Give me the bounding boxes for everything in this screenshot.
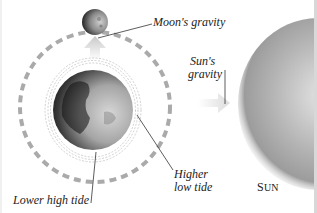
higher-low-tide-label-line2: low tide — [174, 181, 212, 194]
sun-label-rest: UN — [264, 182, 279, 193]
sun-gravity-label-line2: gravity — [188, 68, 222, 81]
tide-diagram: Moon's gravity Sun's gravity Higher low … — [0, 0, 317, 213]
sun — [238, 18, 317, 190]
moon-gravity-label: Moon's gravity — [153, 16, 225, 29]
right-border — [314, 0, 317, 213]
lower-high-tide-label: Lower high tide — [13, 194, 89, 207]
moon — [82, 9, 108, 35]
earth — [53, 70, 133, 150]
sun-label: SUN — [257, 180, 279, 195]
moon-gravity-arrow — [84, 36, 106, 60]
sun-label-initial: S — [257, 180, 264, 194]
